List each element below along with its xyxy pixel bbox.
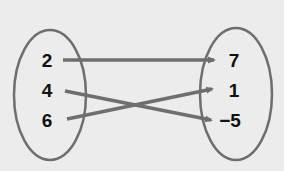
range-value: −5 — [219, 111, 241, 130]
domain-value: 2 — [42, 51, 53, 70]
range-value: 7 — [229, 51, 240, 70]
domain-value: 4 — [42, 81, 53, 100]
range-value: 1 — [229, 81, 240, 100]
mapping-diagram: 2 4 6 7 1 −5 — [0, 0, 284, 171]
domain-value: 6 — [42, 111, 53, 130]
